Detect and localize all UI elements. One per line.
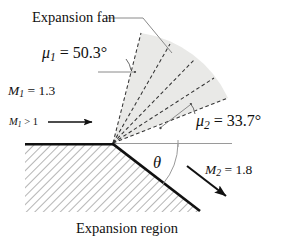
m2-symbol: M (205, 162, 216, 177)
mu2-subscript: 2 (204, 119, 210, 131)
mu1-symbol: μ (42, 44, 50, 61)
mu2-arc-dot (190, 103, 192, 105)
m2-label: M2 = 1.8 (205, 163, 252, 178)
m1-label: M1 = 1.3 (8, 84, 55, 99)
m2-subscript: 2 (216, 167, 221, 178)
m1-inequality-subscript: 1 (18, 120, 22, 129)
m1-symbol: M (8, 83, 19, 98)
mu1-label: μ1 = 50.3° (42, 45, 107, 63)
m1-inequality-label: M1 > 1 (9, 117, 38, 128)
mu2-symbol: μ (196, 112, 204, 129)
theta-angle-arc (163, 144, 178, 185)
mu2-leader-dot (159, 127, 161, 129)
expansion-fan-label: Expansion fan (32, 10, 115, 25)
mu1-angle-arc (126, 59, 131, 70)
m1-value: = 1.3 (27, 83, 55, 98)
mu1-value: = 50.3° (60, 44, 107, 61)
mu2-value: = 33.7° (214, 112, 261, 129)
m1-inequality-value: > 1 (24, 116, 38, 127)
m1-inequality-symbol: M (9, 116, 18, 127)
solid-body-hatched-region (25, 145, 200, 212)
theta-label: θ (153, 155, 161, 172)
mu1-subscript: 1 (50, 51, 56, 63)
figure-canvas: Expansion fan μ1 = 50.3° M1 = 1.3 M1 > 1… (0, 0, 285, 244)
mu2-label: μ2 = 33.7° (196, 113, 261, 131)
m2-value: = 1.8 (224, 162, 252, 177)
figure-caption: Expansion region (76, 221, 178, 236)
m1-subscript: 1 (19, 88, 24, 99)
